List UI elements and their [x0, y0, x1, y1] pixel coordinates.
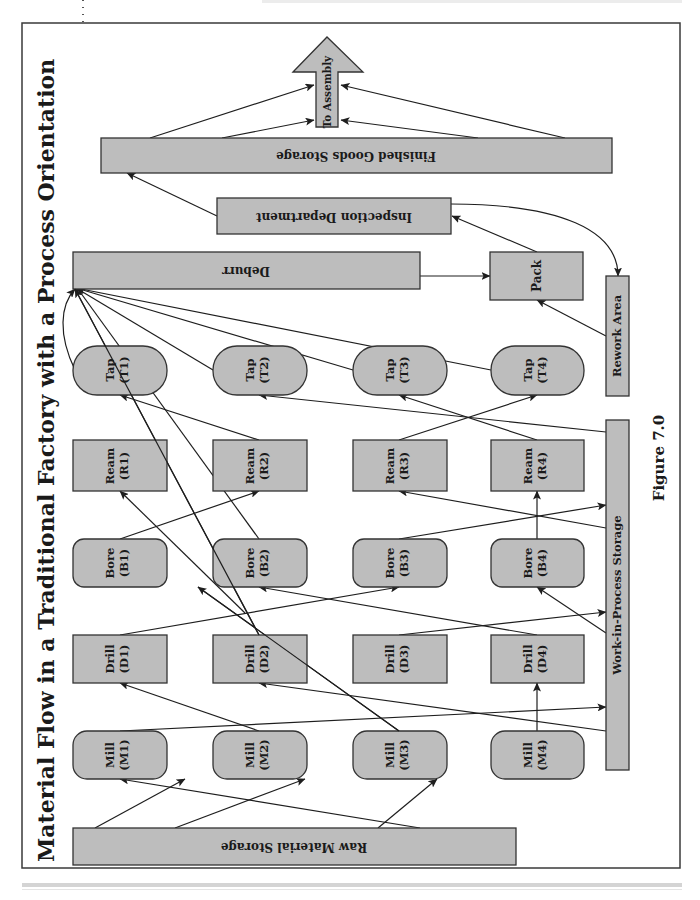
machine-name: Bore	[521, 548, 535, 579]
machine-id: (B4)	[535, 549, 549, 578]
bore-b2: Bore (B2)	[213, 539, 307, 587]
work-in-process-storage: Work-in-Process Storage	[606, 420, 629, 770]
pack-label: Pack	[530, 259, 544, 292]
drill-d4: Drill (D4)	[491, 635, 584, 683]
machine-name: Bore	[103, 548, 117, 579]
machine-id: (T3)	[397, 356, 411, 383]
pack-department: Pack	[490, 252, 583, 300]
page-bottom-rule	[22, 883, 682, 887]
machine-name: Drill	[383, 644, 397, 674]
machine-name: Drill	[103, 644, 117, 674]
deburr-label: Deburr	[221, 264, 269, 278]
machine-name: Ream	[383, 448, 397, 485]
machine-name: Drill	[243, 644, 257, 674]
machine-name: Ream	[521, 448, 535, 485]
wip-label: Work-in-Process Storage	[610, 515, 624, 675]
machine-id: (T1)	[117, 356, 131, 383]
machine-name: Bore	[243, 548, 257, 579]
figure-title: Material Flow in a Traditional Factory w…	[33, 59, 59, 862]
machine-id: (R3)	[397, 452, 411, 480]
machine-name: Drill	[521, 644, 535, 674]
machine-id: (D4)	[535, 645, 549, 674]
machine-name: Tap	[521, 359, 535, 382]
machine-id: (B3)	[397, 549, 411, 578]
rework-label: Rework Area	[610, 294, 624, 377]
machine-name: Bore	[383, 548, 397, 579]
machine-id: (R4)	[535, 452, 549, 480]
machine-name: Mill	[243, 741, 257, 767]
drill-d3: Drill (D3)	[353, 635, 447, 683]
inspection-department: Inspection Department	[217, 198, 451, 234]
figure-label: Figure 7.0	[650, 415, 668, 502]
ream-r3: Ream (R3)	[353, 440, 447, 491]
finished-goods-storage: Finished Goods Storage	[101, 138, 612, 173]
page-bottom-rule-thin	[22, 889, 682, 890]
mill-m1: Mill (M1)	[73, 731, 167, 779]
tap-t4: Tap (T4)	[491, 346, 584, 395]
machine-id: (D1)	[117, 645, 131, 674]
inspection-label: Inspection Department	[255, 210, 412, 224]
machine-id: (T4)	[535, 356, 549, 383]
machine-id: (M3)	[397, 739, 411, 771]
mill-m3: Mill (M3)	[353, 731, 447, 779]
machine-name: Ream	[103, 448, 117, 485]
machine-name: Tap	[243, 359, 257, 382]
machine-id: (D3)	[397, 645, 411, 674]
machine-id: (B2)	[257, 549, 271, 578]
tap-t2: Tap (T2)	[213, 346, 307, 395]
drill-d1: Drill (D1)	[73, 635, 167, 683]
to-assembly-label: To Assembly	[321, 55, 333, 128]
bore-b4: Bore (B4)	[491, 539, 584, 587]
bore-b3: Bore (B3)	[353, 539, 447, 587]
machine-id: (D2)	[257, 645, 271, 674]
machine-id: (M2)	[257, 739, 271, 771]
machine-name: Mill	[383, 741, 397, 767]
machine-name: Mill	[521, 741, 535, 767]
rework-area: Rework Area	[606, 276, 629, 396]
machine-id: (B1)	[117, 549, 131, 578]
finished-goods-label: Finished Goods Storage	[276, 149, 436, 163]
mill-m2: Mill (M2)	[213, 731, 307, 779]
machine-name: Tap	[383, 359, 397, 382]
material-flow-diagram: Material Flow in a Traditional Factory w…	[0, 0, 700, 900]
machine-id: (M1)	[117, 739, 131, 771]
ream-r4: Ream (R4)	[491, 440, 584, 491]
machine-id: (M4)	[535, 739, 549, 771]
machine-name: Tap	[103, 359, 117, 382]
machine-name: Ream	[243, 448, 257, 485]
drill-d2: Drill (D2)	[213, 635, 307, 683]
raw-material-storage: Raw Material Storage	[73, 828, 516, 865]
bore-b1: Bore (B1)	[73, 539, 167, 587]
raw-material-label: Raw Material Storage	[220, 840, 367, 854]
deburr-department: Deburr	[73, 252, 420, 289]
tap-t3: Tap (T3)	[353, 346, 447, 395]
machine-name: Mill	[103, 741, 117, 767]
tap-t1: Tap (T1)	[73, 346, 167, 395]
machine-id: (R2)	[257, 452, 271, 480]
ream-r2: Ream (R2)	[213, 440, 307, 491]
ream-r1: Ream (R1)	[73, 440, 167, 491]
machine-id: (T2)	[257, 356, 271, 383]
mill-m4: Mill (M4)	[491, 731, 584, 779]
machine-id: (R1)	[117, 452, 131, 480]
